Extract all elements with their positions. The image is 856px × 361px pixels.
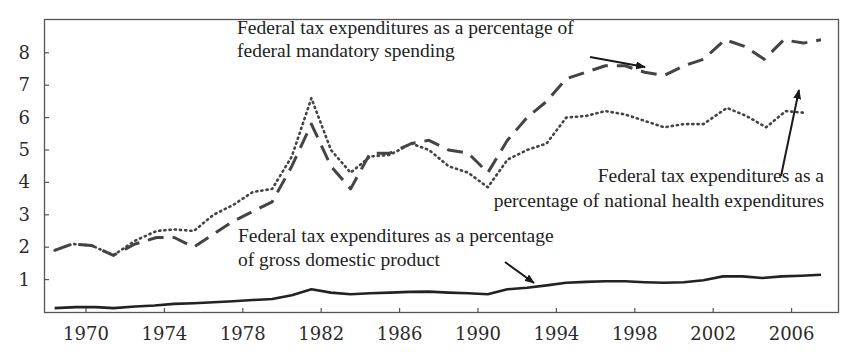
x-tick-label: 1978 [220,323,266,344]
x-tick-label: 2002 [690,323,736,344]
annotation-text: Federal tax expenditures as a [598,165,825,186]
y-tick-label: 6 [19,107,30,128]
x-tick-label: 1970 [63,323,109,344]
x-tick-label: 1982 [298,323,344,344]
annotation-mandatory: Federal tax expenditures as a percentage… [237,17,645,67]
x-tick-label: 1994 [533,323,579,344]
annotation-text: Federal tax expenditures as a percentage… [237,17,574,38]
annotation-text: federal mandatory spending [237,40,455,61]
tax-expenditures-chart: 12345678 1970197419781982198619901994199… [0,0,856,361]
x-tick-label: 1998 [612,323,658,344]
annotation-text: of gross domestic product [238,249,441,270]
x-tick-label: 1974 [141,323,187,344]
x-tick-label: 1986 [377,323,423,344]
y-tick-label: 3 [19,204,30,225]
arrow-icon [505,262,534,283]
y-tick-label: 4 [19,171,30,192]
x-axis: 1970197419781982198619901994199820022006 [63,308,814,344]
y-tick-label: 1 [19,269,30,290]
x-tick-label: 2006 [769,323,815,344]
annotation-text: percentage of national health expenditur… [494,190,824,211]
x-tick-label: 1990 [455,323,501,344]
y-tick-label: 8 [19,42,30,63]
annotation-text: Federal tax expenditures as a percentage [238,225,554,246]
y-tick-label: 2 [19,236,30,257]
arrow-icon [781,90,799,176]
series-line-dashed [55,40,821,256]
annotation-health: Federal tax expenditures as apercentage … [494,90,825,211]
series-line-solid [55,275,821,308]
annotation-gdp: Federal tax expenditures as a percentage… [238,225,554,283]
y-tick-label: 7 [19,74,30,95]
y-tick-label: 5 [19,139,30,160]
